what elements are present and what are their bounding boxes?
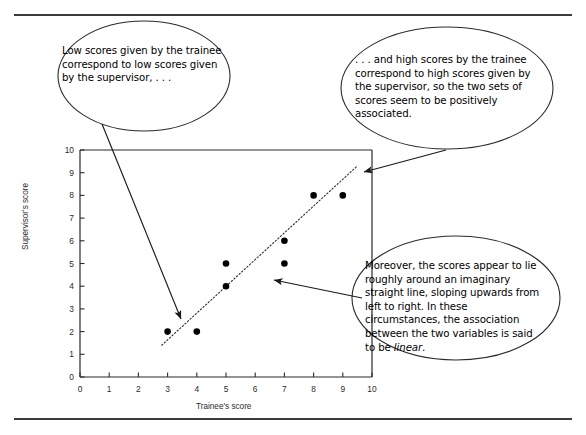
y-axis-label: Supervisor's score (21, 174, 30, 260)
callout-high-scores-text: . . . and high scores by the trainee cor… (355, 53, 540, 121)
arrow-to-high-scores (364, 150, 446, 172)
y-tick-label: 5 (54, 259, 74, 269)
x-tick-label: 3 (165, 384, 170, 394)
x-tick-label: 7 (282, 384, 287, 394)
trend-line (162, 166, 358, 345)
x-tick-label: 10 (367, 384, 376, 394)
x-tick-label: 4 (194, 384, 199, 394)
y-tick-label: 4 (54, 281, 74, 291)
callout-linear-association-text: Moreover, the scores appear to lie rough… (365, 259, 545, 354)
y-tick-label: 6 (54, 236, 74, 246)
scatter-point (281, 260, 288, 267)
callout-low-scores-text: Low scores given by the trainee correspo… (62, 44, 222, 85)
y-axis-ticks (80, 150, 85, 377)
callout-linear-text-before: Moreover, the scores appear to lie rough… (365, 260, 539, 353)
arrow-to-low-scores (102, 124, 181, 319)
scatter-points (164, 192, 346, 335)
arrow-to-trend-line (274, 280, 362, 298)
callout-linear-emphasis: linear (394, 342, 422, 353)
figure-container: Low scores given by the trainee correspo… (0, 0, 586, 435)
scatter-point (340, 192, 347, 199)
y-tick-label: 3 (54, 304, 74, 314)
y-tick-label: 7 (54, 213, 74, 223)
y-tick-label: 1 (54, 349, 74, 359)
y-tick-label: 2 (54, 327, 74, 337)
scatter-point (194, 328, 201, 335)
scatter-point (281, 238, 288, 245)
scatter-point (223, 283, 230, 290)
x-tick-label: 8 (311, 384, 316, 394)
x-axis-ticks (80, 373, 372, 378)
callout-linear-text-after: . (422, 342, 425, 353)
x-tick-label: 5 (224, 384, 229, 394)
scatter-point (310, 192, 317, 199)
x-tick-label: 2 (136, 384, 141, 394)
y-tick-label: 0 (54, 372, 74, 382)
scatter-point (164, 328, 171, 335)
x-tick-label: 9 (340, 384, 345, 394)
scatter-point (223, 260, 230, 267)
y-tick-label: 10 (54, 145, 74, 155)
x-tick-label: 6 (253, 384, 258, 394)
x-axis-label: Trainee's score (196, 402, 251, 411)
x-tick-label: 1 (107, 384, 112, 394)
x-tick-label: 0 (78, 384, 83, 394)
y-tick-label: 8 (54, 190, 74, 200)
y-tick-label: 9 (54, 168, 74, 178)
